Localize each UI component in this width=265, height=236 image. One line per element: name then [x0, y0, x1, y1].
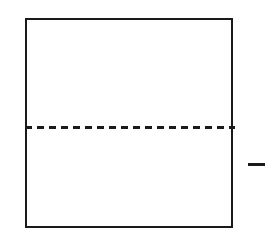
horizontal-dashed-divider-line: [25, 126, 235, 129]
diagram-canvas: [0, 0, 265, 236]
right-dash-marker: [248, 163, 265, 166]
square-outline-shape: [25, 18, 233, 228]
